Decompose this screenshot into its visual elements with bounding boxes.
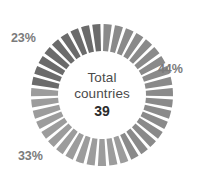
- donut-chart-figure: Total countries 39 44% 33% 23%: [0, 0, 198, 186]
- percentage-label-23: 23%: [11, 31, 36, 45]
- donut-segment-group: [31, 24, 173, 166]
- percentage-label-44: 44%: [158, 62, 183, 76]
- donut-segment: [98, 139, 106, 166]
- donut-segment: [103, 24, 112, 51]
- percentage-label-33: 33%: [18, 149, 43, 163]
- donut-segment: [31, 88, 58, 96]
- donut-segment: [146, 88, 173, 96]
- donut-segment: [92, 24, 101, 51]
